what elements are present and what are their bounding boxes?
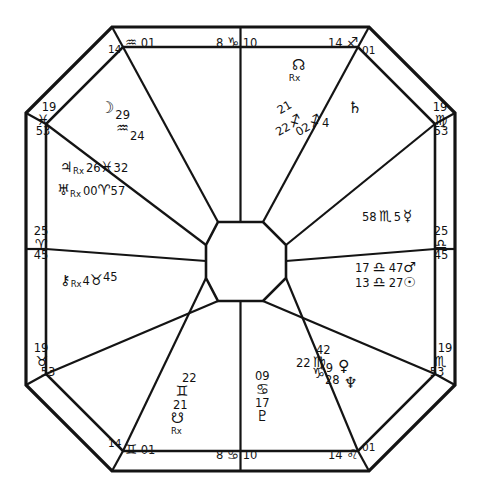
cusp-leo-bottom-right: 14 ♌ 01 xyxy=(328,448,375,462)
planet-pluto: 09 ♋ 17 ♇ xyxy=(255,370,270,425)
planet-uranus: ♅Rx00♈57 xyxy=(57,182,125,199)
planet-sun: 13♎27☉ xyxy=(355,274,416,290)
cusp-aries-left-mid: 25 ♈ 45 xyxy=(24,226,58,262)
planet-saturn: ♄ xyxy=(348,98,362,117)
planet-neptune: ♑28♆ xyxy=(312,364,358,382)
cusp-pisces-left-top: 19 ♓ 53 xyxy=(26,102,60,138)
planet-mercury: 58♏5☿ xyxy=(362,207,412,225)
planet-mars: 17♎47♂ xyxy=(355,259,416,275)
chart-wheel-lines xyxy=(0,0,481,498)
planet-north-node: ☊ Rx xyxy=(292,58,305,83)
cusp-libra-right-mid: 25 ♎ 45 xyxy=(424,226,458,262)
planet-moon: ☽29 xyxy=(100,98,129,117)
planet-moon-sign: ♒24 xyxy=(116,120,144,136)
cusp-virgo-right-top: 19 ♍ 53 xyxy=(424,102,458,138)
cusp-sagittarius-top-right: 14 ♐ 01 xyxy=(328,36,375,50)
astrology-chart-wheel: 14 ♒ 01 8 ♑ 10 14 ♐ 01 14 ♊ 01 8 ♋ 10 14… xyxy=(0,0,481,498)
cusp-aquarius-top-left: 14 ♒ 01 xyxy=(108,36,155,50)
cusp-taurus-left-bottom: 19 ♉ 53 xyxy=(25,343,59,379)
planet-chiron: ⚷Rx4♉45 xyxy=(60,272,118,289)
planet-jupiter: ♃Rx26♓32 xyxy=(60,159,128,176)
cusp-capricorn-top-mid: 8 ♑ 10 xyxy=(216,36,257,50)
cusp-gemini-bottom-left: 14 ♊ 01 xyxy=(108,443,155,457)
planet-south-node: 22 ♊ 21 ☋Rx xyxy=(168,372,197,435)
cusp-scorpio-right-bottom: 19 ♏ 53 xyxy=(423,343,457,379)
cusp-cancer-bottom-mid: 8 ♋ 10 xyxy=(216,448,257,462)
inner-octagon xyxy=(206,222,286,301)
